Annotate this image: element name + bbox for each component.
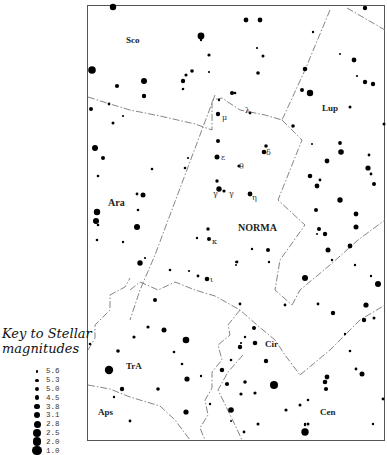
star [365,165,370,170]
star [169,269,172,272]
star [110,4,116,10]
star-dot-icon [35,387,39,391]
star [97,175,100,178]
star [349,350,352,353]
constellation-label: Lup [322,103,338,113]
greek-letter-label: λ [245,106,250,115]
star [368,154,371,157]
constellation-boundaries [88,8,385,440]
star [144,257,146,259]
greek-letter-label: κ [212,237,217,246]
star [323,380,328,385]
star [324,387,328,391]
star [244,336,246,338]
star [354,212,359,217]
star [319,179,322,182]
star [291,124,295,128]
star [105,366,113,374]
star [337,197,342,202]
star [206,227,209,230]
star [92,145,98,151]
star [256,71,260,75]
key-row: 2.5 [30,429,85,438]
star [243,431,246,434]
star [181,363,184,366]
key-row: 5.3 [30,376,85,385]
star [354,264,356,266]
star [141,78,147,84]
star [113,396,115,398]
greek-letter-label: θ [239,162,244,171]
magnitude-key: 5.6 5.3 5.0 4.5 3.8 3.1 2.8 2.5 2.0 1.0 [30,367,85,455]
star-dot-icon [35,379,38,382]
star [300,88,304,92]
star [325,375,330,380]
star [372,182,376,186]
star [101,156,105,160]
boundary-line [275,120,305,305]
star [243,380,247,384]
star [323,232,327,236]
star [240,342,242,344]
star [207,237,211,241]
star-dot-icon [34,421,41,428]
star [200,375,202,377]
star [331,311,335,315]
boundary-line [88,278,130,350]
star [339,53,341,55]
star [184,167,187,170]
star [120,387,124,391]
star [153,298,157,302]
star [302,275,308,281]
star [156,387,160,391]
star [344,333,346,335]
star-dot-icon [32,446,42,455]
star [220,368,224,372]
boundary-line [130,95,215,320]
star [235,264,237,266]
star [228,407,234,413]
star [97,224,100,227]
star [299,404,302,407]
key-row: 4.5 [30,393,85,402]
key-row: 3.1 [30,411,85,420]
star [338,141,342,145]
star-dot-icon [35,395,40,400]
star [373,317,376,320]
star [198,33,205,40]
star [115,84,119,88]
greek-letter-label: ι [210,275,213,284]
greek-letter-label: μ [222,113,227,122]
key-row: 3.8 [30,402,85,411]
star [190,69,194,73]
star [230,420,232,422]
star [331,259,333,261]
star [270,381,278,389]
star [312,31,314,33]
star [188,270,190,272]
star [363,80,367,84]
star [216,139,220,143]
star [134,224,140,230]
star [303,67,308,72]
star [253,391,256,394]
greek-letter-label: η [252,193,257,202]
star [284,408,287,411]
star [362,318,366,322]
star [184,73,187,76]
star [258,18,263,23]
star [141,193,146,198]
star [326,248,331,253]
star [338,149,344,155]
star [317,227,321,231]
star-designations: μλεθδγγηκι [210,106,271,284]
boundary-line [292,220,385,305]
star [146,325,149,328]
star [355,368,358,371]
star [301,428,308,435]
star [116,349,120,353]
star [356,75,358,77]
star [197,275,200,278]
star [354,225,359,230]
star [371,82,375,86]
